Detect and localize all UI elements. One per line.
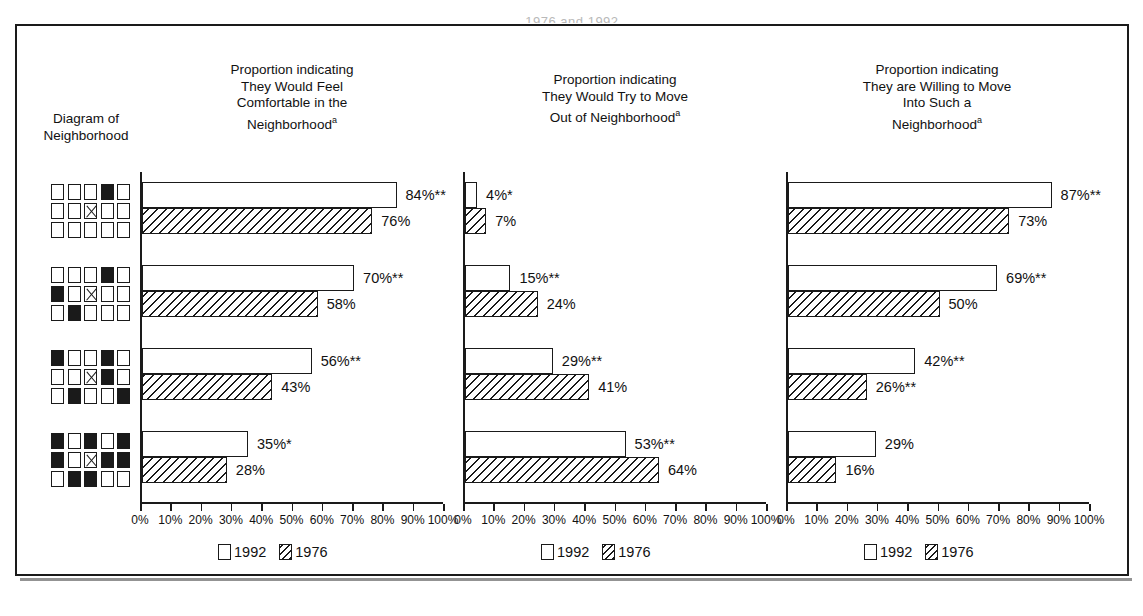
axis-tick	[615, 504, 617, 511]
white-household-icon	[51, 203, 64, 219]
axis-tick-label: 20%	[189, 513, 213, 527]
white-household-icon	[84, 222, 97, 238]
axis-tick	[493, 504, 495, 511]
white-household-icon	[84, 388, 97, 404]
title-footnote-marker: a	[675, 108, 680, 118]
white-household-icon	[68, 184, 81, 200]
bar-value-label-1976-4: 16%	[845, 462, 874, 478]
respondent-home-icon	[84, 452, 97, 468]
white-household-icon	[101, 388, 114, 404]
bar-1992-2	[465, 265, 510, 291]
black-household-icon	[68, 305, 81, 321]
white-household-icon	[51, 471, 64, 487]
bar-1992-3	[465, 348, 553, 374]
black-household-icon	[51, 433, 64, 449]
bar-value-label-1976-4: 64%	[668, 462, 697, 478]
axis-tick	[443, 504, 445, 511]
legend-label-1976: 1976	[941, 544, 973, 560]
axis-tick-label: 30%	[219, 513, 243, 527]
axis-tick	[524, 504, 526, 511]
axis-tick-label: 60%	[310, 513, 334, 527]
white-household-icon	[117, 305, 130, 321]
bar-1976-3	[465, 374, 589, 400]
diagram-row	[51, 203, 146, 219]
black-household-icon	[101, 184, 114, 200]
black-household-icon	[51, 350, 64, 366]
white-household-icon	[68, 369, 81, 385]
legend-swatch-1976	[279, 544, 292, 560]
white-household-icon	[68, 350, 81, 366]
bar-value-label-1992-1: 87%**	[1061, 187, 1101, 203]
black-household-icon	[51, 286, 64, 302]
legend-label-1976: 1976	[295, 544, 327, 560]
axis-tick-label: 70%	[986, 513, 1010, 527]
bar-value-label-1992-3: 56%**	[321, 353, 361, 369]
neighborhood-diagram-2	[51, 267, 146, 324]
bar-1976-4	[788, 457, 836, 483]
white-household-icon	[68, 452, 81, 468]
axis-tick	[705, 504, 707, 511]
axis-tick	[675, 504, 677, 511]
axis-tick	[907, 504, 909, 511]
diagram-row	[51, 184, 146, 200]
bar-1976-4	[465, 457, 659, 483]
diagram-row	[51, 388, 146, 404]
bar-value-label-1976-3: 26%**	[876, 379, 916, 395]
bar-1992-3	[142, 348, 312, 374]
axis-tick	[140, 504, 142, 511]
white-household-icon	[51, 388, 64, 404]
axis-tick	[231, 504, 233, 511]
title-footnote-marker: a	[332, 115, 337, 125]
white-household-icon	[101, 471, 114, 487]
black-household-icon	[117, 433, 130, 449]
axis-tick	[645, 504, 647, 511]
bar-1976-2	[788, 291, 940, 317]
axis-tick	[877, 504, 879, 511]
axis-tick	[1059, 504, 1061, 511]
white-household-icon	[101, 286, 114, 302]
bar-1992-1	[142, 182, 397, 208]
legend-swatch-1976	[925, 544, 938, 560]
axis-tick-label: 50%	[925, 513, 949, 527]
axis-tick	[736, 504, 738, 511]
white-household-icon	[101, 203, 114, 219]
black-household-icon	[84, 471, 97, 487]
axis-tick	[766, 504, 768, 511]
axis-tick	[1028, 504, 1030, 511]
bar-value-label-1992-3: 29%**	[562, 353, 602, 369]
axis-tick	[382, 504, 384, 511]
axis-tick-label: 90%	[1047, 513, 1071, 527]
bar-1976-2	[465, 291, 538, 317]
respondent-home-icon	[84, 203, 97, 219]
white-household-icon	[101, 305, 114, 321]
white-household-icon	[117, 350, 130, 366]
title-footnote-marker: a	[977, 115, 982, 125]
white-household-icon	[84, 305, 97, 321]
white-household-icon	[84, 267, 97, 283]
white-household-icon	[117, 222, 130, 238]
bar-1976-1	[142, 208, 372, 234]
axis-tick	[584, 504, 586, 511]
bar-value-label-1992-1: 84%**	[406, 187, 446, 203]
bar-value-label-1992-3: 42%**	[924, 353, 964, 369]
axis-tick	[938, 504, 940, 511]
neighborhood-diagram-1	[51, 184, 146, 241]
diagram-row	[51, 222, 146, 238]
axis-tick	[261, 504, 263, 511]
bar-1976-4	[142, 457, 227, 483]
bar-value-label-1976-1: 73%	[1018, 213, 1047, 229]
white-household-icon	[68, 222, 81, 238]
bar-value-label-1992-2: 69%**	[1006, 270, 1046, 286]
bar-1976-3	[142, 374, 272, 400]
diagram-row	[51, 286, 146, 302]
panel-title-3: Proportion indicatingThey are Willing to…	[777, 62, 1097, 133]
diagram-row	[51, 433, 146, 449]
white-household-icon	[51, 369, 64, 385]
neighborhood-diagram-3	[51, 350, 146, 407]
axis-tick-label: 40%	[572, 513, 596, 527]
bar-value-label-1976-4: 28%	[236, 462, 265, 478]
white-household-icon	[84, 184, 97, 200]
legend-label-1976: 1976	[618, 544, 650, 560]
axis-tick	[413, 504, 415, 511]
white-household-icon	[101, 433, 114, 449]
